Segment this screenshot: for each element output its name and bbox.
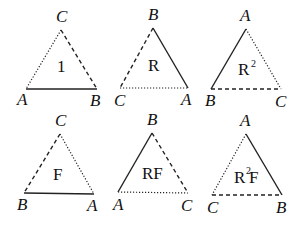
- edge-left: [211, 29, 246, 89]
- vertex-bottom-left-label: B: [205, 91, 216, 110]
- edge-left: [26, 30, 61, 89]
- edge-bottom: [24, 193, 94, 194]
- edge-right: [60, 134, 94, 194]
- symmetry-label: R: [234, 168, 246, 187]
- symmetry-diagram: C A B 1 B C A R A B C R 2 C B A F: [0, 0, 304, 227]
- symmetry-label: R: [148, 56, 160, 75]
- vertex-apex-label: C: [56, 7, 68, 26]
- vertex-bottom-right-label: B: [90, 91, 101, 110]
- triangle-r: B C A R: [114, 5, 192, 110]
- vertex-bottom-left-label: A: [112, 195, 124, 214]
- vertex-bottom-left-label: C: [207, 198, 219, 217]
- edge-left: [118, 133, 152, 192]
- vertex-bottom-right-label: A: [86, 196, 98, 215]
- symmetry-label-suffix: F: [249, 168, 258, 187]
- vertex-bottom-right-label: C: [181, 196, 193, 215]
- vertex-apex-label: A: [239, 111, 251, 130]
- vertex-bottom-right-label: B: [276, 198, 287, 217]
- edge-right: [152, 133, 188, 193]
- triangle-rf: B A C RF: [112, 110, 193, 215]
- vertex-apex-label: B: [148, 5, 159, 24]
- vertex-bottom-left-label: B: [17, 195, 28, 214]
- triangle-identity: C A B 1: [16, 7, 101, 110]
- edge-right: [61, 30, 97, 89]
- edge-bottom: [118, 192, 188, 193]
- symmetry-label: RF: [142, 164, 163, 183]
- vertex-apex-label: B: [147, 110, 158, 129]
- symmetry-label: F: [53, 165, 62, 184]
- edge-left: [24, 134, 60, 193]
- symmetry-label: R: [238, 60, 250, 79]
- vertex-bottom-left-label: C: [114, 91, 126, 110]
- symmetry-label: 1: [57, 57, 66, 76]
- vertex-bottom-right-label: A: [180, 90, 192, 109]
- vertex-apex-label: A: [239, 6, 251, 25]
- vertex-bottom-left-label: A: [16, 90, 28, 109]
- vertex-apex-label: C: [55, 111, 67, 130]
- triangle-r-squared: A B C R 2: [205, 6, 287, 111]
- vertex-bottom-right-label: C: [275, 92, 287, 111]
- symmetry-label-superscript: 2: [251, 58, 256, 69]
- triangle-r-squared-f: A C B R 2 F: [207, 111, 287, 217]
- triangle-f: C B A F: [17, 111, 98, 215]
